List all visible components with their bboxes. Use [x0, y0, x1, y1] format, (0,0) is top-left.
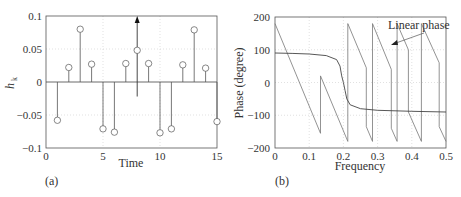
stem-marker	[111, 129, 117, 135]
figure: 0.10.050−0.05−0.1 051015 Time h k (a) 20…	[0, 0, 461, 197]
x-axis-label-a: Time	[119, 156, 144, 170]
x-tick-label: 0	[272, 150, 278, 162]
x-tick-label: 0.5	[439, 150, 453, 162]
y-tick-label: 0	[265, 77, 271, 89]
y-tick-label: 100	[254, 44, 271, 56]
stem-marker	[145, 60, 151, 66]
annotation-pointer-line	[396, 33, 424, 43]
grid-b	[275, 17, 446, 148]
x-tick-label: 15	[212, 150, 224, 162]
x-axis-label-b: Frequency	[335, 159, 386, 173]
y-tick-label: 0	[37, 76, 43, 88]
x-tick-label: 0.1	[302, 150, 316, 162]
stem-marker	[202, 65, 208, 71]
y-ticks-a: 0.10.050−0.05−0.1	[17, 10, 43, 154]
stem-marker	[168, 126, 174, 132]
stem-marker	[157, 130, 163, 136]
linear-phase-line	[275, 24, 446, 142]
axes-frame-b	[275, 17, 446, 148]
y-tick-label: −0.05	[17, 109, 43, 121]
stem-plot-a: 0.10.050−0.05−0.1 051015 Time h k (a)	[3, 10, 223, 188]
y-label-sub-k: k	[10, 77, 19, 81]
y-label-h: h	[3, 83, 17, 89]
stem-marker	[77, 26, 83, 32]
x-tick-label: 10	[155, 150, 167, 162]
arrow-icon	[134, 16, 140, 97]
y-tick-label: 200	[254, 11, 271, 23]
arrowhead-icon	[391, 40, 398, 45]
x-tick-label: 0.4	[405, 150, 419, 162]
stem-marker	[66, 64, 72, 70]
stem-marker	[88, 61, 94, 67]
panel-label-b: (b)	[275, 174, 289, 188]
stem-marker	[54, 117, 60, 123]
y-tick-label: −100	[247, 109, 270, 121]
y-tick-label: 0.05	[23, 43, 43, 55]
panel-label-a: (a)	[45, 174, 58, 188]
x-tick-label: 5	[100, 150, 106, 162]
y-axis-label-b: Phase (degree)	[232, 48, 246, 119]
y-ticks-b: 2001000−100−200	[247, 11, 270, 154]
y-axis-label-a: h k	[3, 77, 19, 89]
stem-marker	[214, 118, 220, 124]
y-tick-label: −0.1	[22, 142, 42, 154]
stem-marker	[134, 47, 140, 53]
stem-marker	[180, 62, 186, 68]
y-tick-label: 0.1	[28, 10, 42, 22]
phase-lines	[275, 24, 446, 142]
stem-marker	[191, 27, 197, 33]
phase-plot-b: 2001000−100−200 00.10.20.30.40.5 Frequen…	[232, 11, 453, 188]
stem-marker	[100, 126, 106, 132]
nonlinear-phase-line	[275, 53, 446, 112]
linear-phase-annotation: Linear phase	[388, 18, 450, 32]
y-tick-label: −200	[247, 142, 270, 154]
x-tick-label: 0	[43, 150, 49, 162]
stem-marker	[123, 60, 129, 66]
arrow-head	[135, 16, 140, 23]
